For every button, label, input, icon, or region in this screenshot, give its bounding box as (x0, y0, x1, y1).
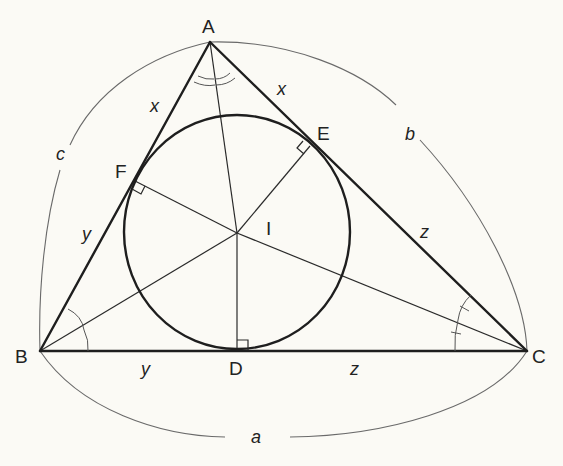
angle-mark-A-left-2 (194, 82, 215, 86)
label-point-E: E (317, 123, 330, 144)
label-BF-y: y (80, 224, 92, 244)
right-angle-F (132, 186, 145, 194)
label-vertex-B: B (15, 346, 28, 367)
incircle-diagram: A B C D E F I x x y y z z a b c (0, 0, 563, 466)
label-incenter-I: I (266, 218, 271, 239)
side-b-arc-upper (210, 42, 396, 105)
label-vertex-A: A (202, 16, 215, 37)
bisector-A (210, 42, 237, 233)
right-angle-E (297, 141, 304, 154)
radius-IF (135, 181, 237, 233)
label-BD-y: y (139, 359, 151, 379)
side-AB (40, 42, 210, 351)
label-point-F: F (115, 161, 127, 182)
label-side-b: b (405, 124, 415, 144)
side-b-arc-lower (420, 140, 527, 351)
label-DC-z: z (349, 359, 359, 379)
radius-IE (237, 146, 310, 233)
label-AE-x: x (276, 79, 287, 99)
angle-mark-A-left-1 (198, 76, 214, 79)
label-point-D: D (229, 358, 243, 379)
label-side-a: a (251, 427, 261, 447)
label-vertex-C: C (532, 346, 546, 367)
label-side-c: c (56, 144, 65, 164)
angle-mark-C-arc (455, 295, 471, 351)
bisector-B (40, 233, 237, 351)
side-AC (210, 42, 527, 351)
side-a-arc-right (290, 351, 527, 437)
angle-mark-B (68, 309, 88, 351)
angle-mark-A-right-1 (215, 73, 230, 79)
label-CE-z: z (419, 222, 429, 242)
side-a-arc-left (40, 351, 225, 437)
bisector-C (237, 233, 527, 351)
side-c-arc-lower (40, 170, 60, 351)
label-AF-x: x (149, 96, 160, 116)
side-c-arc-upper (70, 42, 210, 145)
